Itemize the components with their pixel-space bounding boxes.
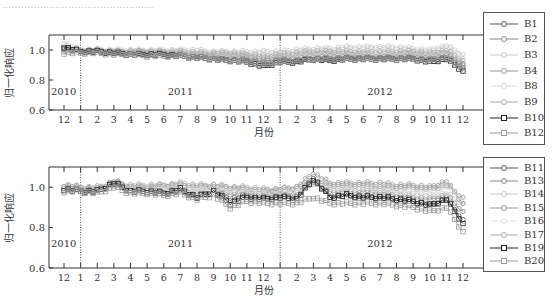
year-label: 2010: [51, 238, 76, 249]
chart-plot-bottom: 0.60.81.0归一化响应12123456789101112123456789…: [0, 0, 553, 304]
legend-item-b16: B16: [484, 214, 544, 228]
year-label: 2011: [168, 238, 193, 249]
circle-marker-icon: [488, 214, 520, 228]
legend-label: B11: [524, 161, 544, 175]
legend-item-b11: B11: [484, 161, 544, 175]
legend-label: B14: [524, 187, 544, 201]
x-tick-label: 2: [294, 272, 300, 283]
x-tick-label: 7: [377, 272, 383, 283]
circle-marker-icon: [488, 161, 520, 175]
square-marker-icon: [488, 254, 520, 268]
x-tick-label: 8: [194, 272, 200, 283]
x-tick-label: 6: [360, 272, 366, 283]
legend-item-b14: B14: [484, 187, 544, 201]
x-tick-label: 1: [277, 272, 283, 283]
x-tick-label: 4: [127, 272, 133, 283]
y-tick-label: 0.8: [29, 222, 45, 233]
x-tick-label: 6: [161, 272, 167, 283]
legend-item-b19: B19: [484, 241, 544, 255]
legend-label: B16: [524, 214, 544, 228]
year-label: 2012: [367, 238, 392, 249]
legend-item-b20: B20: [484, 254, 544, 268]
x-tick-label: 7: [177, 272, 183, 283]
y-tick-label: 1.0: [29, 182, 45, 193]
x-tick-label: 10: [424, 272, 436, 283]
y-tick-label: 0.6: [29, 263, 45, 274]
x-tick-label: 12: [257, 272, 269, 283]
circle-marker-icon: [488, 201, 520, 215]
legend-item-b13: B13: [484, 174, 544, 188]
legend-label: B19: [524, 241, 544, 255]
x-tick-label: 11: [241, 272, 253, 283]
legend-bottom: B11B13B14B15B16B17B19B20: [483, 157, 545, 272]
x-tick-label: 5: [144, 272, 150, 283]
y-axis-label: 归一化响应: [3, 193, 15, 243]
legend-label: B13: [524, 174, 544, 188]
circle-marker-icon: [488, 174, 520, 188]
x-tick-label: 9: [410, 272, 416, 283]
x-tick-label: 3: [111, 272, 117, 283]
legend-item-b15: B15: [484, 201, 544, 215]
square-marker-icon: [488, 241, 520, 255]
legend-label: B17: [524, 228, 544, 242]
x-tick-label: 3: [310, 272, 316, 283]
x-tick-label: 5: [344, 272, 350, 283]
x-tick-label: 12: [58, 272, 70, 283]
legend-label: B20: [524, 254, 544, 268]
circle-marker-icon: [488, 187, 520, 201]
legend-item-b17: B17: [484, 228, 544, 242]
x-tick-label: 8: [393, 272, 399, 283]
x-tick-label: 4: [327, 272, 333, 283]
x-tick-label: 9: [211, 272, 217, 283]
x-tick-label: 2: [94, 272, 100, 283]
x-axis-label: 月份: [254, 285, 274, 296]
legend-label: B15: [524, 201, 544, 215]
x-tick-label: 12: [457, 272, 469, 283]
x-tick-label: 1: [78, 272, 84, 283]
x-tick-label: 11: [440, 272, 452, 283]
chart-panel-bottom: 0.60.81.0归一化响应12123456789101112123456789…: [0, 0, 553, 304]
circle-marker-icon: [488, 228, 520, 242]
x-tick-label: 10: [224, 272, 236, 283]
